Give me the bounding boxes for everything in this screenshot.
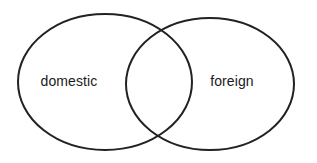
venn-diagram-canvas: domestic foreign (0, 0, 317, 163)
venn-diagram-svg: domestic foreign (0, 0, 317, 163)
venn-set-right-label: foreign (210, 73, 254, 89)
venn-set-left-label: domestic (41, 73, 98, 89)
